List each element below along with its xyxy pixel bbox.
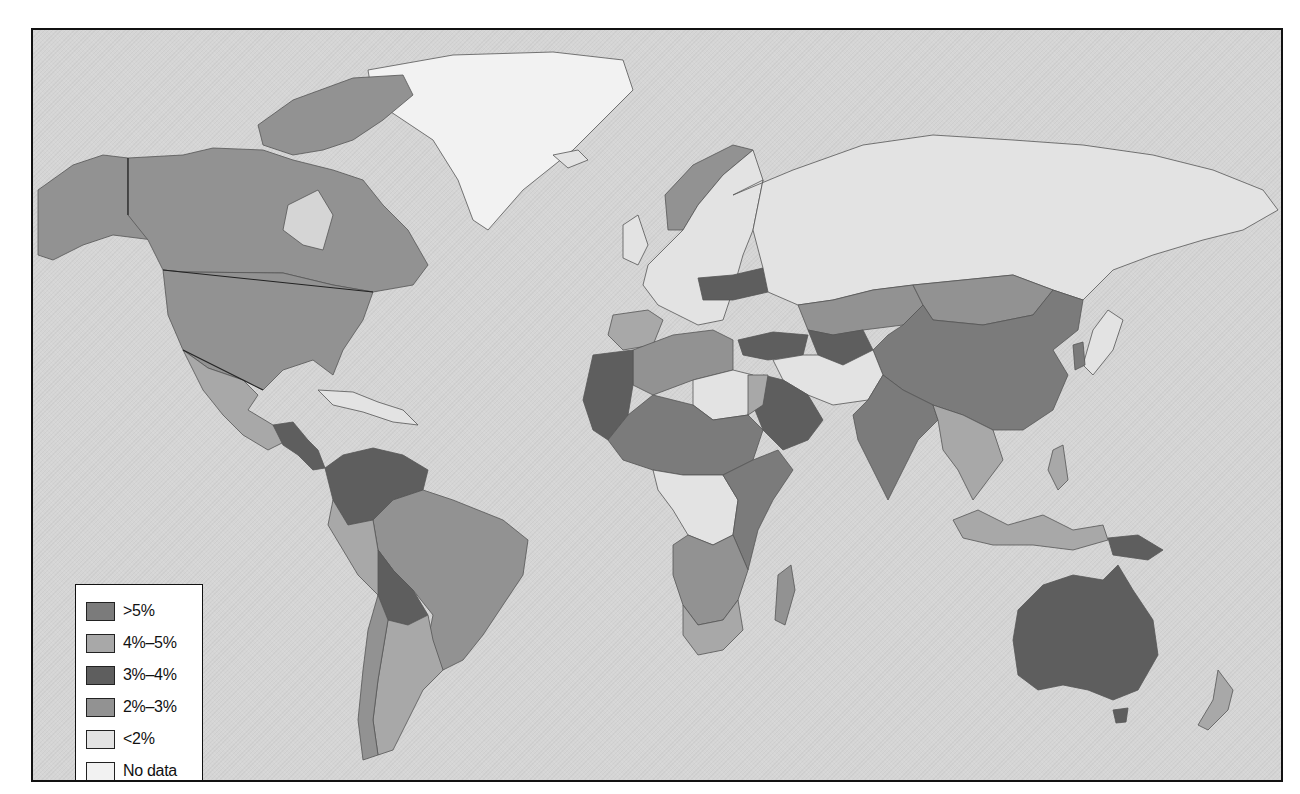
legend-item-lt2[interactable]: <2%: [86, 723, 202, 755]
region-korea[interactable]: [1073, 342, 1085, 370]
legend-label: >5%: [123, 602, 155, 620]
legend-item-gt5[interactable]: >5%: [86, 595, 202, 627]
region-canada-islands[interactable]: [258, 75, 413, 155]
region-uk[interactable]: [623, 215, 648, 265]
legend-label: 4%–5%: [123, 634, 177, 652]
region-australia[interactable]: [1013, 565, 1158, 700]
region-greenland[interactable]: [368, 52, 633, 230]
region-madagascar[interactable]: [775, 565, 795, 625]
region-japan[interactable]: [1083, 310, 1123, 375]
region-central-america[interactable]: [273, 422, 325, 470]
region-indonesia[interactable]: [953, 510, 1108, 550]
legend-swatch: [86, 602, 115, 621]
world-map: [33, 30, 1281, 780]
map-frame: >5% 4%–5% 3%–4% 2%–3% <2% No data: [31, 28, 1283, 782]
legend-swatch: [86, 666, 115, 685]
legend-item-no-data[interactable]: No data: [86, 755, 202, 782]
region-new-zealand[interactable]: [1198, 670, 1233, 730]
region-tasmania[interactable]: [1113, 708, 1128, 723]
legend-item-4-5[interactable]: 4%–5%: [86, 627, 202, 659]
legend-swatch: [86, 762, 115, 781]
region-papua-new-guinea[interactable]: [1108, 535, 1163, 560]
legend-swatch: [86, 730, 115, 749]
region-canada[interactable]: [128, 148, 428, 292]
legend-label: <2%: [123, 730, 155, 748]
legend-swatch: [86, 698, 115, 717]
legend-swatch: [86, 634, 115, 653]
legend-item-3-4[interactable]: 3%–4%: [86, 659, 202, 691]
legend-label: No data: [123, 762, 177, 780]
region-caribbean[interactable]: [318, 390, 418, 425]
legend-label: 2%–3%: [123, 698, 177, 716]
region-central-africa[interactable]: [653, 470, 738, 545]
legend-item-2-3[interactable]: 2%–3%: [86, 691, 202, 723]
legend-label: 3%–4%: [123, 666, 177, 684]
region-philippines[interactable]: [1048, 445, 1068, 490]
legend: >5% 4%–5% 3%–4% 2%–3% <2% No data: [75, 584, 203, 782]
